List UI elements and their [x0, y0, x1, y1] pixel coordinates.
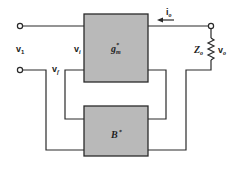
- output-terminal: [208, 23, 213, 28]
- resistor-zo-icon: [208, 38, 214, 60]
- input-bottom-wire: [23, 70, 84, 150]
- label-vi: vi: [74, 44, 81, 55]
- label-vo: vo: [218, 45, 226, 56]
- label-vf: vf: [52, 64, 60, 75]
- feedback-amplifier-diagram: v1 vi vf io Zo vo g*m B*: [0, 0, 238, 174]
- vf-loop-wire: [65, 70, 84, 119]
- label-zo: Zo: [193, 44, 203, 56]
- label-io: io: [166, 7, 172, 18]
- io-arrow-icon: [157, 18, 163, 23]
- input-bottom-terminal: [17, 67, 22, 72]
- label-v1: v1: [16, 44, 25, 55]
- output-return-wire: [148, 60, 211, 150]
- output-sense-loop-wire: [148, 70, 166, 119]
- input-top-terminal: [17, 23, 22, 28]
- forward-gain-block: [84, 14, 148, 82]
